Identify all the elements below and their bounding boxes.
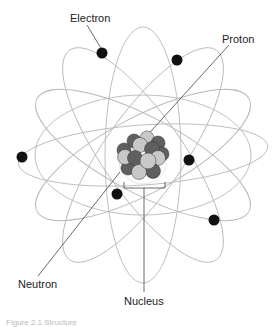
electron	[17, 152, 28, 163]
electron	[97, 48, 108, 59]
neutron-label: Neutron	[18, 278, 57, 290]
electron	[112, 189, 123, 200]
nucleus-label: Nucleus	[124, 295, 164, 307]
electron	[184, 155, 195, 166]
electron-label: Electron	[70, 12, 110, 24]
electron	[209, 215, 220, 226]
electron	[172, 55, 183, 66]
figure-caption: Figure 2.1 Structure	[6, 318, 77, 327]
nucleus	[117, 131, 169, 184]
electrons	[17, 48, 220, 226]
proton-label: Proton	[222, 33, 254, 45]
